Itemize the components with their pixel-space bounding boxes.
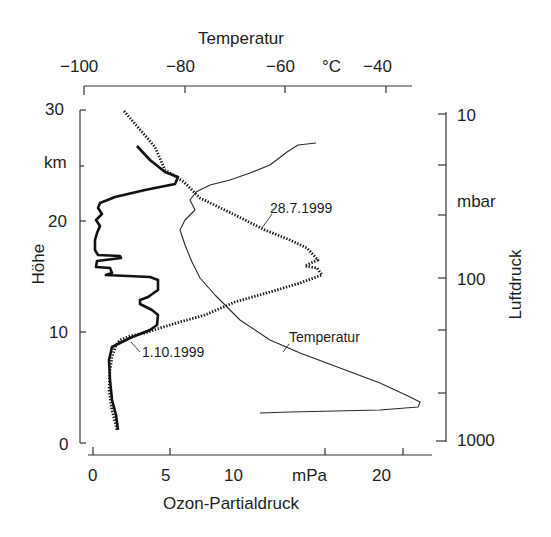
- bottom-axis: [88, 447, 432, 455]
- bottom-tick-5: 5: [161, 467, 170, 484]
- top-tick-minus40: −40: [363, 58, 392, 75]
- right-unit-mbar: mbar: [457, 193, 496, 210]
- annotation-28-7-1999: 28.7.1999: [270, 201, 332, 215]
- bottom-tick-10: 10: [224, 467, 243, 484]
- ozone-curve-28-7-1999: [109, 111, 322, 430]
- top-axis-title: Temperatur: [198, 30, 284, 47]
- top-tick-minus80: −80: [166, 58, 195, 75]
- right-axis-title: Luftdruck: [507, 240, 524, 330]
- top-tick-unit: °C: [322, 58, 341, 75]
- left-axis: [80, 110, 86, 443]
- left-tick-30: 30: [45, 101, 64, 118]
- top-axis: [84, 86, 412, 95]
- ozone-curve-1-10-1999: [95, 146, 178, 430]
- ozone-profile-chart: [0, 0, 551, 537]
- annotation-temperatur: Temperatur: [289, 330, 360, 344]
- left-tick-0: 0: [59, 436, 68, 453]
- right-tick-100: 100: [457, 271, 485, 288]
- right-axis: [436, 112, 446, 442]
- bottom-axis-title: Ozon-Partialdruck: [163, 495, 299, 512]
- left-tick-20: 20: [48, 213, 67, 230]
- right-tick-10: 10: [457, 107, 476, 124]
- left-tick-10: 10: [49, 324, 68, 341]
- left-axis-title: Höhe: [30, 245, 47, 285]
- annotation-leaders: [131, 214, 289, 352]
- top-tick-minus100: −100: [60, 58, 98, 75]
- right-tick-1000: 1000: [457, 432, 495, 449]
- top-tick-minus60: −60: [266, 58, 295, 75]
- left-unit-km: km: [44, 154, 67, 171]
- bottom-tick-0: 0: [88, 467, 97, 484]
- annotation-1-10-1999: 1.10.1999: [142, 345, 204, 359]
- temperature-curve: [180, 143, 420, 413]
- bottom-tick-20: 20: [372, 467, 391, 484]
- bottom-unit-mpa: mPa: [292, 467, 327, 484]
